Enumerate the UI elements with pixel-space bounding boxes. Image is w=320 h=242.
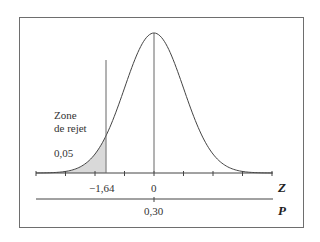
p-value-label: 0,30	[144, 205, 163, 217]
p-axis-label: P	[278, 203, 286, 219]
zone-label-line2: de rejet	[54, 122, 87, 134]
zone-label-line1: Zone	[54, 109, 77, 121]
z-axis-label: Z	[278, 180, 286, 196]
alpha-label: 0,05	[54, 147, 73, 159]
critical-value-label: −1,64	[89, 182, 114, 194]
zero-label: 0	[151, 182, 157, 194]
